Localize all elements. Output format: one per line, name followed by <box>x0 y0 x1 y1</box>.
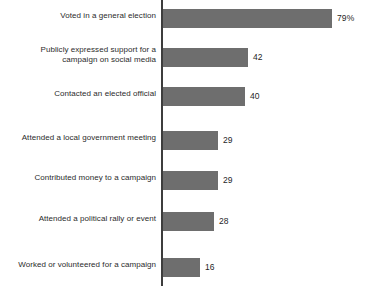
bar[interactable] <box>163 87 245 106</box>
bar-value-label: 79% <box>337 9 354 28</box>
bar[interactable] <box>163 131 218 150</box>
category-label: Voted in a general election <box>6 11 156 21</box>
category-label: Publicly expressed support for a campaig… <box>6 45 156 64</box>
bar[interactable] <box>163 258 200 277</box>
category-label: Contributed money to a campaign <box>6 173 156 183</box>
category-label: Attended a local government meeting <box>6 133 156 143</box>
category-label: Attended a political rally or event <box>6 214 156 224</box>
bar-chart: Voted in a general election79%Publicly e… <box>0 0 372 292</box>
bar-value-label: 40 <box>250 87 260 106</box>
category-label: Worked or volunteered for a campaign <box>6 260 156 270</box>
bar-value-label: 29 <box>223 171 233 190</box>
bar-value-label: 16 <box>205 258 215 277</box>
bar-value-label: 28 <box>219 212 229 231</box>
bar-value-label: 42 <box>253 48 263 67</box>
bar[interactable] <box>163 171 218 190</box>
category-label: Contacted an elected official <box>6 89 156 99</box>
bar[interactable] <box>163 48 248 67</box>
bar[interactable] <box>163 9 332 28</box>
bar[interactable] <box>163 212 214 231</box>
bar-value-label: 29 <box>223 131 233 150</box>
